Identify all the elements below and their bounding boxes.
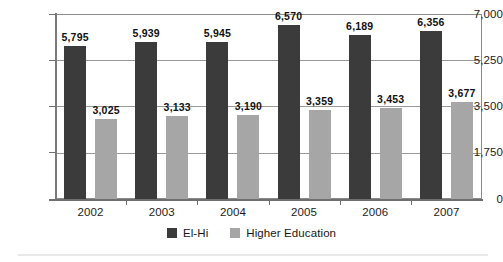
bar-el-hi-2006	[349, 35, 371, 199]
x-tick-label-2004: 2004	[220, 206, 246, 218]
y-tick-label-7000: 7,000	[455, 8, 503, 20]
legend-item-higher-education: Higher Education	[230, 227, 336, 239]
bar-higher-education-2005	[309, 110, 331, 199]
bar-value-label-higher-education-2002: 3,025	[92, 104, 119, 116]
y-tick-mark-0	[49, 199, 56, 200]
legend-swatch-icon-el-hi	[167, 228, 177, 238]
bar-el-hi-2005	[278, 25, 300, 199]
x-tick-mark-0	[126, 200, 127, 205]
bar-value-label-higher-education-2006: 3,453	[377, 93, 404, 105]
legend-label-el-hi: El-Hi	[183, 227, 208, 239]
x-axis-line	[49, 199, 483, 201]
bar-value-label-higher-education-2007: 3,677	[448, 87, 475, 99]
y-tick-mark-3500	[49, 106, 56, 107]
y-tick-mark-1750	[49, 152, 56, 153]
bar-value-label-higher-education-2003: 3,133	[164, 101, 191, 113]
bar-higher-education-2006	[380, 108, 402, 199]
bar-value-label-el-hi-2004: 5,945	[204, 27, 231, 39]
bar-value-label-el-hi-2007: 6,356	[417, 16, 444, 28]
bar-value-label-higher-education-2004: 3,190	[235, 100, 262, 112]
y-axis-line	[55, 13, 57, 201]
legend-item-el-hi: El-Hi	[167, 227, 208, 239]
legend-swatch-icon-higher-education	[230, 228, 240, 238]
chart-screenshot: 7,000 5,250 3,500 1,750 0 5,7953,0255,93…	[0, 0, 503, 262]
gridline-3500	[56, 106, 481, 107]
bar-higher-education-2004	[237, 115, 259, 199]
chart-legend: El-Hi Higher Education	[0, 227, 503, 239]
x-tick-mark-4	[411, 200, 412, 205]
bar-value-label-el-hi-2005: 6,570	[275, 10, 302, 22]
x-tick-label-2005: 2005	[291, 206, 317, 218]
bar-value-label-higher-education-2005: 3,359	[306, 95, 333, 107]
y-tick-label-5250: 5,250	[455, 54, 503, 66]
x-tick-mark-1	[197, 200, 198, 205]
gridline-1750	[56, 153, 481, 154]
gridline-5250	[56, 60, 481, 61]
bar-higher-education-2003	[166, 116, 188, 199]
bar-el-hi-2002	[64, 46, 86, 199]
scan-artifact-line	[18, 254, 488, 256]
bar-el-hi-2007	[420, 31, 442, 199]
bar-higher-education-2007	[451, 102, 473, 199]
bar-value-label-el-hi-2006: 6,189	[346, 20, 373, 32]
bar-el-hi-2003	[135, 42, 157, 199]
bar-value-label-el-hi-2003: 5,939	[133, 27, 160, 39]
bar-higher-education-2002	[95, 119, 117, 199]
x-tick-mark-3	[340, 200, 341, 205]
y-tick-mark-5250	[49, 60, 56, 61]
bar-el-hi-2004	[206, 42, 228, 199]
legend-label-higher-education: Higher Education	[246, 227, 336, 239]
x-tick-label-2002: 2002	[78, 206, 104, 218]
x-tick-label-2006: 2006	[362, 206, 388, 218]
x-tick-label-2007: 2007	[433, 206, 459, 218]
bar-value-label-el-hi-2002: 5,795	[61, 31, 88, 43]
y-tick-mark-7000	[49, 14, 56, 15]
x-tick-mark-2	[269, 200, 270, 205]
x-tick-label-2003: 2003	[149, 206, 175, 218]
